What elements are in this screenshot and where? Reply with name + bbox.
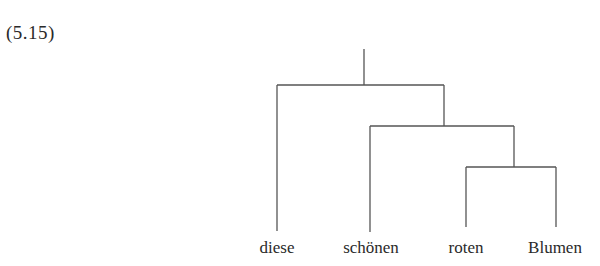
tree-branches xyxy=(277,49,556,232)
leaf-label: Blumen xyxy=(528,238,582,258)
leaf-label: diese xyxy=(260,238,295,258)
leaf-label: schönen xyxy=(343,238,399,258)
tree-diagram xyxy=(0,0,600,266)
leaf-label: roten xyxy=(449,238,484,258)
